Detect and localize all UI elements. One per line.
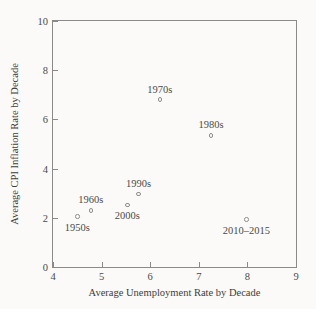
x-axis-tick-label: 6	[148, 271, 153, 282]
y-axis-tick-label: 10	[38, 16, 49, 27]
data-point[interactable]	[209, 133, 214, 138]
y-axis-tick	[53, 267, 58, 268]
plot-area: 02468104567891950s1960s1970s1980s1990s20…	[53, 21, 296, 267]
y-axis-tick-label: 4	[43, 163, 48, 174]
scatter-chart-figure: Average CPI Inflation Rate by Decade 024…	[0, 0, 316, 309]
x-axis-tick-label: 9	[293, 271, 298, 282]
y-axis-title: Average CPI Inflation Rate by Decade	[9, 63, 20, 225]
data-point[interactable]	[89, 208, 94, 213]
y-axis-tick-label: 6	[43, 114, 48, 125]
data-point-label: 1960s	[78, 194, 103, 205]
data-point[interactable]	[136, 192, 141, 197]
data-point-label: 1970s	[147, 84, 172, 95]
data-point[interactable]	[75, 214, 80, 219]
x-axis-tick	[247, 262, 248, 267]
y-axis-tick	[53, 218, 58, 219]
x-axis-tick	[150, 262, 151, 267]
y-axis-tick-label: 0	[43, 262, 48, 273]
y-axis-tick	[53, 21, 58, 22]
x-axis-tick-label: 4	[50, 271, 55, 282]
plot-frame: 02468104567891950s1960s1970s1980s1990s20…	[52, 20, 297, 268]
y-axis-tick-label: 8	[43, 65, 48, 76]
data-point[interactable]	[125, 203, 130, 208]
x-axis-tick-label: 5	[99, 271, 104, 282]
x-axis-tick	[296, 262, 297, 267]
y-axis-tick-label: 2	[43, 212, 48, 223]
x-axis-tick-label: 7	[196, 271, 201, 282]
x-axis-tick-label: 8	[245, 271, 250, 282]
x-axis-tick	[53, 262, 54, 267]
y-axis-tick	[53, 70, 58, 71]
x-axis-title: Average Unemployment Rate by Decade	[52, 287, 297, 298]
data-point[interactable]	[244, 217, 249, 222]
x-axis-tick	[199, 262, 200, 267]
y-axis-tick	[53, 119, 58, 120]
data-point-label: 1980s	[198, 119, 223, 130]
y-axis-tick	[53, 169, 58, 170]
x-axis-tick	[102, 262, 103, 267]
data-point-label: 2010–2015	[223, 225, 270, 236]
data-point-label: 1990s	[126, 178, 151, 189]
data-point[interactable]	[158, 97, 163, 102]
data-point-label: 2000s	[115, 210, 140, 221]
data-point-label: 1950s	[65, 222, 90, 233]
